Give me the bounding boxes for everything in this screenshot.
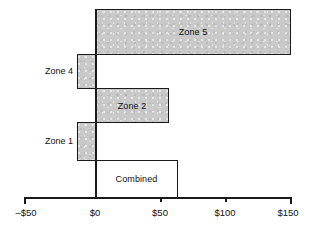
x-axis-line	[24, 197, 291, 199]
bar-combined[interactable]: Combined	[95, 160, 178, 198]
x-axis-tick-150	[290, 197, 292, 204]
x-axis-tick-50	[160, 197, 162, 202]
bar-zone-4[interactable]	[77, 54, 96, 89]
bar-chart: Zone 5 Zone 4 Zone 2 Zone 1 Combined –$5…	[0, 0, 328, 235]
bar-zone-1[interactable]	[77, 122, 96, 161]
zero-axis-line	[95, 9, 97, 198]
bar-label-combined: Combined	[116, 174, 158, 184]
x-axis-label-100: $100	[214, 207, 235, 218]
bar-label-zone-2: Zone 2	[118, 101, 147, 111]
bar-zone-5[interactable]: Zone 5	[95, 9, 291, 55]
x-axis-tick--50	[24, 197, 26, 204]
x-axis-label-150: $150	[277, 207, 298, 218]
x-axis-label-0: $0	[90, 207, 101, 218]
bar-label-zone-5: Zone 5	[179, 27, 208, 37]
bar-label-zone-4: Zone 4	[18, 66, 73, 76]
x-axis-tick-0	[95, 192, 97, 198]
plot-area: Zone 5 Zone 4 Zone 2 Zone 1 Combined –$5…	[0, 0, 328, 235]
bar-zone-2[interactable]: Zone 2	[95, 88, 169, 123]
x-axis-tick-100	[225, 197, 227, 202]
x-axis-label--50: –$50	[15, 207, 36, 218]
bar-label-zone-1: Zone 1	[18, 136, 73, 146]
x-axis-label-50: $50	[152, 207, 168, 218]
